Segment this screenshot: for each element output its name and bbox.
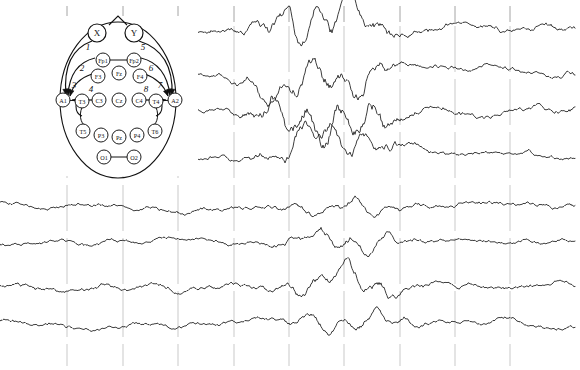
electrode-c3[interactable]: C3 [92, 93, 106, 107]
electrode-label: T5 [80, 128, 87, 135]
derivation-number-6: 6 [149, 63, 154, 73]
electrode-fp2[interactable]: Fp2 [127, 53, 141, 67]
electrode-label: Fp2 [129, 57, 139, 64]
derivation-number-3: 3 [71, 80, 77, 90]
electrode-f4[interactable]: F4 [133, 69, 147, 83]
eeg-viewer: XYFp1Fp2F3FzF4A1T3C3CzC4T4A2T5P3PzP4T6O1… [0, 0, 580, 370]
derivation-number-5: 5 [141, 42, 146, 52]
electrode-label: Fp1 [98, 57, 108, 64]
electrode-label: P3 [98, 132, 105, 139]
electrode-fz[interactable]: Fz [112, 66, 126, 80]
electrode-label: O2 [130, 154, 138, 161]
electrode-label: F4 [137, 73, 144, 80]
derivation-number-8: 8 [144, 84, 149, 94]
electrode-t5[interactable]: T5 [76, 124, 90, 138]
reference-node-x[interactable]: X [88, 24, 106, 42]
electrode-c4[interactable]: C4 [132, 93, 146, 107]
electrode-label: P4 [134, 132, 141, 139]
electrode-cz[interactable]: Cz [112, 93, 126, 107]
reference-node-y[interactable]: Y [125, 24, 143, 42]
electrode-f3[interactable]: F3 [91, 69, 105, 83]
electrode-pz[interactable]: Pz [112, 130, 126, 144]
electrode-t6[interactable]: T6 [148, 124, 162, 138]
electrode-label: A2 [171, 97, 179, 104]
head-diagram: XYFp1Fp2F3FzF4A1T3C3CzC4T4A2T5P3PzP4T6O1… [38, 16, 198, 178]
electrode-label: Cz [116, 97, 123, 104]
derivation-number-1: 1 [86, 42, 91, 52]
derivation-number-2: 2 [80, 63, 85, 73]
electrode-label: T3 [79, 98, 86, 105]
electrode-label: T4 [153, 98, 160, 105]
reference-node-label: X [94, 28, 101, 38]
electrode-t3[interactable]: T3 [75, 94, 89, 108]
electrode-t4[interactable]: T4 [149, 94, 163, 108]
reference-node-label: Y [131, 28, 138, 38]
electrode-a1[interactable]: A1 [56, 93, 70, 107]
electrode-label: C3 [95, 97, 102, 104]
derivation-number-4: 4 [89, 84, 94, 94]
electrode-fp1[interactable]: Fp1 [96, 53, 110, 67]
derivation-number-7: 7 [158, 80, 163, 90]
electrode-a2[interactable]: A2 [168, 93, 182, 107]
electrode-label: O1 [100, 154, 108, 161]
electrode-label: Fz [116, 70, 122, 77]
electrode-label: C4 [135, 97, 142, 104]
electrode-p4[interactable]: P4 [130, 128, 144, 142]
electrode-label: A1 [59, 97, 67, 104]
electrode-label: F3 [95, 73, 102, 80]
electrode-p3[interactable]: P3 [94, 128, 108, 142]
electrode-label: Pz [116, 134, 122, 141]
electrode-label: T6 [152, 128, 159, 135]
eeg-canvas: XYFp1Fp2F3FzF4A1T3C3CzC4T4A2T5P3PzP4T6O1… [0, 0, 580, 370]
electrode-o2[interactable]: O2 [127, 150, 141, 164]
electrode-o1[interactable]: O1 [97, 150, 111, 164]
